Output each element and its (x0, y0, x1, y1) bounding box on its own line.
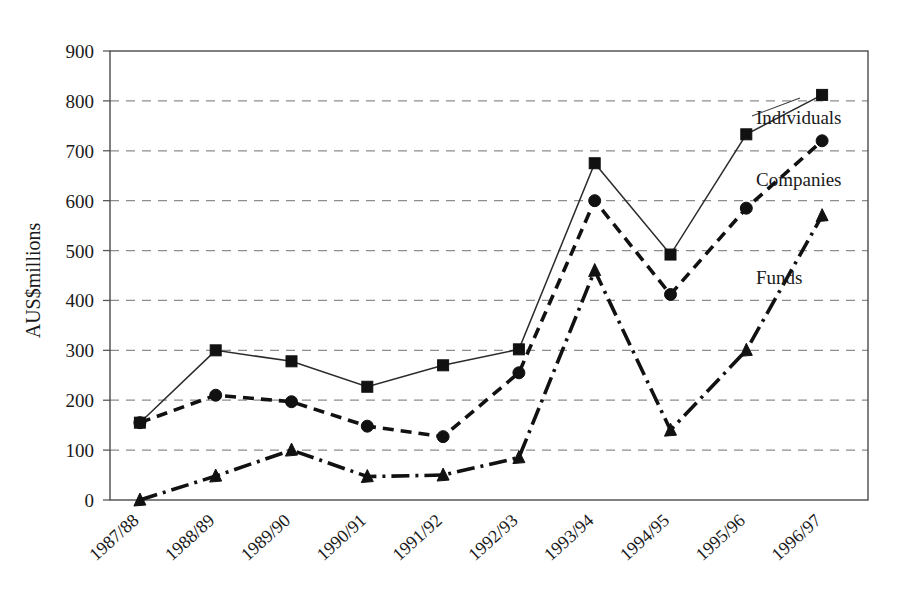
marker-circle (210, 389, 222, 401)
marker-square (513, 344, 524, 355)
marker-circle (589, 195, 601, 207)
series-label-individuals: Individuals (756, 107, 842, 128)
x-tick-label: 1993/94 (540, 510, 597, 564)
series-companies (134, 135, 828, 443)
y-tick-label: 900 (66, 41, 95, 62)
marker-triangle (816, 209, 828, 222)
marker-circle (134, 417, 146, 429)
x-tick-label: 1992/93 (464, 510, 521, 564)
line-chart: 0100200300400500600700800900AUS$millions… (0, 0, 897, 615)
x-tick-label: 1996/97 (768, 510, 825, 564)
y-axis-title: AUS$millions (22, 222, 44, 338)
y-tick-label: 100 (66, 440, 95, 461)
marker-square (438, 360, 449, 371)
x-tick-label: 1995/96 (692, 510, 749, 564)
marker-square (589, 158, 600, 169)
y-tick-label: 600 (66, 191, 95, 212)
x-tick-label: 1994/95 (616, 510, 673, 564)
y-tick-label: 500 (66, 241, 95, 262)
y-tick-label: 400 (66, 290, 95, 311)
plot-frame (110, 51, 868, 500)
marker-circle (665, 288, 677, 300)
marker-circle (816, 135, 828, 147)
y-tick-label: 200 (66, 390, 95, 411)
x-tick-label: 1990/91 (313, 510, 370, 564)
y-tick-label: 800 (66, 91, 95, 112)
marker-square (817, 89, 828, 100)
series-line-companies (140, 141, 822, 437)
series-label-funds: Funds (756, 267, 802, 288)
series-individuals (134, 89, 827, 428)
x-tick-label: 1987/88 (85, 510, 142, 564)
y-tick-label: 300 (66, 340, 95, 361)
series-annotations: IndividualsCompaniesFunds (752, 98, 842, 288)
marker-circle (361, 420, 373, 432)
x-tick-label: 1991/92 (389, 510, 446, 564)
marker-square (286, 356, 297, 367)
y-tick-label: 700 (66, 141, 95, 162)
marker-circle (740, 202, 752, 214)
marker-triangle (589, 264, 601, 277)
chart-container: 0100200300400500600700800900AUS$millions… (0, 0, 897, 615)
marker-circle (286, 396, 298, 408)
series-line-individuals (140, 95, 822, 423)
y-tick-label: 0 (85, 490, 95, 511)
marker-square (210, 345, 221, 356)
marker-square (362, 381, 373, 392)
x-tick-label: 1988/89 (161, 510, 218, 564)
series-label-companies: Companies (756, 169, 842, 190)
marker-square (741, 129, 752, 140)
marker-square (665, 249, 676, 260)
x-tick-label: 1989/90 (237, 510, 294, 564)
marker-circle (513, 367, 525, 379)
y-gridlines: 0100200300400500600700800900 (66, 41, 869, 511)
x-axis-labels: 1987/881988/891989/901990/911991/921992/… (85, 510, 824, 564)
marker-circle (437, 431, 449, 443)
